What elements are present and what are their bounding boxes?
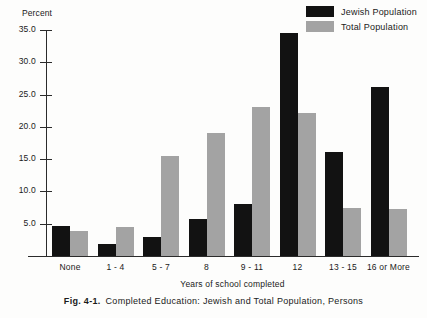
y-axis-tick: 5.0: [40, 224, 46, 225]
y-axis-tick: 20.0: [40, 127, 46, 128]
bar-group: [143, 30, 179, 256]
figure-container: Percent Jewish Population Total Populati…: [0, 0, 427, 318]
legend-item-jewish-population: Jewish Population: [306, 6, 417, 17]
bar-jewish-population: [189, 219, 207, 256]
y-axis-tick-label: 30.0: [19, 56, 36, 66]
bar-total-population: [161, 156, 179, 256]
y-axis-tick: 10.0: [40, 191, 46, 192]
bar-jewish-population: [234, 204, 252, 256]
x-axis-line: [28, 256, 419, 257]
figure-caption-text: Completed Education: Jewish and Total Po…: [106, 296, 364, 306]
bar-group: [52, 30, 88, 256]
bar-group: [280, 30, 316, 256]
bar-total-population: [298, 113, 316, 256]
y-axis-tick: 35.0: [40, 30, 46, 31]
y-axis-tick: 15.0: [40, 159, 46, 160]
bar-group: [325, 30, 361, 256]
x-axis-title: Years of school completed: [46, 279, 419, 289]
bar-group: [189, 30, 225, 256]
y-axis-tick-label: 10.0: [19, 185, 36, 195]
figure-caption: Fig. 4-1.Completed Education: Jewish and…: [0, 296, 427, 306]
figure-number: Fig. 4-1.: [64, 296, 101, 306]
y-axis-tick-label: 35.0: [19, 24, 36, 34]
y-axis-tick-label: 20.0: [19, 121, 36, 131]
bar-jewish-population: [52, 226, 70, 256]
bar-total-population: [116, 227, 134, 256]
bar-total-population: [343, 208, 361, 256]
bar-jewish-population: [143, 237, 161, 256]
bar-jewish-population: [371, 87, 389, 256]
y-axis-tick-label: 5.0: [24, 218, 36, 228]
bar-group: [234, 30, 270, 256]
bar-group: [371, 30, 407, 256]
legend-swatch-jewish-population: [306, 6, 334, 17]
y-axis-title: Percent: [22, 8, 52, 18]
bar-total-population: [389, 209, 407, 256]
bar-jewish-population: [325, 152, 343, 256]
bar-total-population: [70, 231, 88, 256]
y-axis-tick: 30.0: [40, 62, 46, 63]
bar-jewish-population: [280, 33, 298, 256]
y-axis-tick-label: 25.0: [19, 89, 36, 99]
legend-label-jewish-population: Jewish Population: [341, 7, 417, 17]
bar-group: [98, 30, 134, 256]
x-axis-category-label: 16 or More: [361, 262, 417, 272]
bar-total-population: [207, 133, 225, 256]
plot-area: 5.010.015.020.025.030.035.0 None1 - 45 -…: [46, 30, 419, 257]
y-axis-tick-label: 15.0: [19, 153, 36, 163]
bar-total-population: [252, 107, 270, 256]
y-axis-tick: 25.0: [40, 95, 46, 96]
chart-legend: Jewish Population Total Population: [306, 6, 417, 32]
bar-jewish-population: [98, 244, 116, 256]
